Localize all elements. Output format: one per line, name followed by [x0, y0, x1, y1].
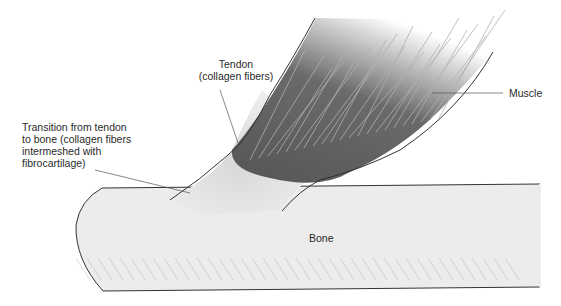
bone-label: Bone [309, 232, 334, 244]
tendon-label-line2: (collagen fibers) [196, 70, 276, 82]
transition-label-line3: intermeshed with [22, 145, 182, 157]
transition-label-line1: Transition from tendon [22, 121, 182, 133]
transition-label-line2: to bone (collagen fibers [22, 133, 182, 145]
muscle-shape [232, 18, 493, 183]
bone-shape [76, 184, 540, 291]
tendon-leader [220, 90, 238, 143]
tendon-label-line1: Tendon [196, 58, 276, 70]
transition-label: Transition from tendon to bone (collagen… [22, 121, 182, 169]
muscle-label: Muscle [509, 87, 542, 99]
diagram-canvas: Tendon (collagen fibers) Transition from… [0, 0, 561, 306]
transition-label-line4: fibrocartilage) [22, 157, 182, 169]
tendon-label: Tendon (collagen fibers) [196, 58, 276, 82]
